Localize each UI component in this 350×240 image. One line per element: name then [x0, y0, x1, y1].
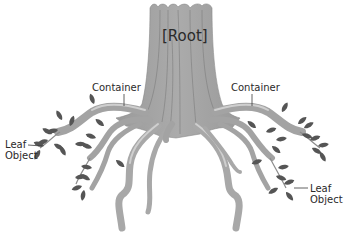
- leaf-object-right-line1: Leaf: [310, 183, 343, 194]
- leaf-object-left-line1: Leaf: [5, 139, 38, 150]
- leaf-object-left-line2: Object: [5, 150, 38, 161]
- container-label-left: Container: [92, 82, 141, 93]
- leaf-object-label-left: Leaf Object: [5, 139, 38, 161]
- root-label: [Root]: [162, 31, 208, 42]
- leaf-object-right-line2: Object: [310, 194, 343, 205]
- container-label-right: Container: [231, 82, 280, 93]
- leaf-object-label-right: Leaf Object: [310, 183, 343, 205]
